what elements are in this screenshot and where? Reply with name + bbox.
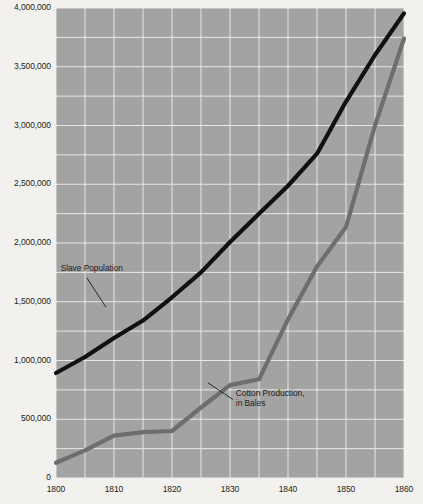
chart-root: 0500,0001,000,0001,500,0002,000,0002,500… (0, 0, 423, 504)
slave-population-label: Slave Population (61, 263, 123, 274)
slave-population-label-leader-line (87, 278, 106, 307)
y-axis-tick-label: 0 (46, 472, 51, 482)
y-axis-tick-label: 500,000 (21, 413, 51, 423)
y-axis-tick-label: 2,500,000 (14, 178, 51, 188)
x-axis-tick-label: 1800 (36, 484, 76, 494)
y-axis-tick-label: 4,000,000 (14, 2, 51, 12)
y-axis-tick-label: 2,000,000 (14, 237, 51, 247)
cotton-production-label: Cotton Production,in Bales (236, 388, 305, 409)
cotton-production-label-line: in Bales (236, 398, 305, 409)
x-axis-tick-label: 1830 (210, 484, 250, 494)
x-axis-tick-label: 1840 (268, 484, 308, 494)
slave-population-label-line: Slave Population (61, 263, 123, 274)
x-axis-tick-label: 1810 (94, 484, 134, 494)
cotton-production-label-line: Cotton Production, (236, 388, 305, 399)
y-axis-tick-label: 3,500,000 (14, 61, 51, 71)
x-axis-tick-label: 1820 (152, 484, 192, 494)
y-axis-tick-label: 3,000,000 (14, 120, 51, 130)
x-axis-tick-label: 1850 (326, 484, 366, 494)
chart-canvas (0, 0, 423, 504)
y-axis-tick-label: 1,000,000 (14, 355, 51, 365)
y-axis-tick-label: 1,500,000 (14, 296, 51, 306)
x-axis-tick-label: 1860 (384, 484, 423, 494)
